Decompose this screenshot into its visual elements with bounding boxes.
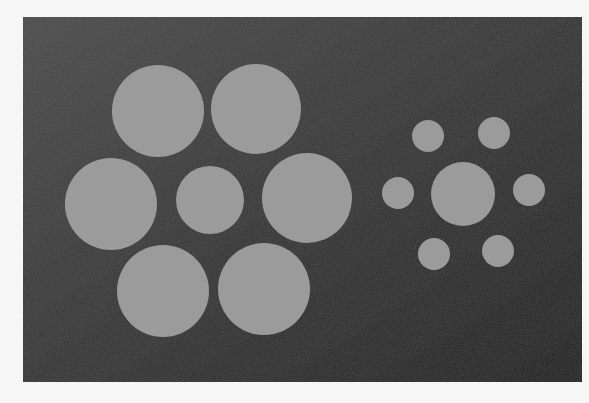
right-surrounding-circle-2 [478, 117, 510, 149]
left-surrounding-circle-1 [112, 65, 204, 157]
illusion-canvas [0, 0, 589, 403]
right-surrounding-circle-5 [418, 238, 450, 270]
left-surrounding-circle-4 [262, 153, 352, 243]
left-surrounding-circle-2 [211, 64, 301, 154]
left-surrounding-circle-3 [65, 158, 157, 250]
right-center-circle [431, 162, 495, 226]
right-surrounding-circle-1 [412, 120, 444, 152]
right-surrounding-circle-4 [513, 174, 545, 206]
left-surrounding-circle-5 [117, 245, 209, 337]
left-center-circle [176, 166, 244, 234]
ebbinghaus-illusion-figure [0, 0, 589, 403]
right-surrounding-circle-3 [382, 177, 414, 209]
left-surrounding-circle-6 [218, 243, 310, 335]
right-surrounding-circle-6 [482, 235, 514, 267]
